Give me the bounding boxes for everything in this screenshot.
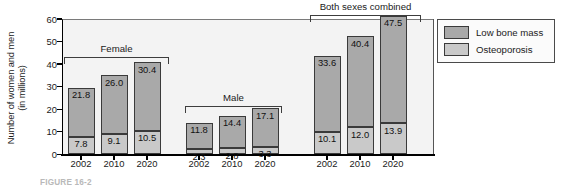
x-tick-mark-3: [198, 156, 199, 160]
bracket-male: [185, 106, 282, 113]
figure-caption: FIGURE 16-2: [40, 178, 92, 187]
x-tick-mark-0: [80, 156, 81, 160]
bar-segment-low-bone-mass: 11.8: [186, 123, 213, 150]
x-tick-mark-4: [231, 156, 232, 160]
bracket-combined: [310, 15, 421, 22]
bar: 14.42.8: [219, 116, 246, 155]
y-tick-mark-10: [57, 131, 62, 132]
plot-right-border: [433, 19, 434, 155]
bar-value-label: 13.9: [381, 126, 406, 136]
legend: Low bone mass Osteoporosis: [437, 19, 555, 63]
bar-value-label: 10.5: [135, 133, 160, 143]
y-tick-mark-60: [57, 18, 62, 19]
bar: 40.412.0: [347, 36, 374, 154]
legend-swatch-low-bone-mass: [444, 26, 469, 39]
legend-item-low-bone-mass: Low bone mass: [444, 25, 543, 39]
legend-item-osteoporosis: Osteoporosis: [444, 42, 533, 56]
legend-label-osteoporosis: Osteoporosis: [476, 44, 533, 55]
y-tick-mark-30: [57, 86, 62, 87]
bar: 21.87.8: [68, 88, 95, 155]
bar-value-label: 7.8: [69, 139, 94, 149]
bar: 47.513.9: [380, 16, 407, 155]
y-tick-mark-20: [57, 109, 62, 110]
bar-value-label: 30.4: [135, 65, 160, 75]
x-tick-mark-7: [359, 156, 360, 160]
x-tick-label-8: 2020: [373, 158, 413, 169]
y-tick-mark-40: [57, 63, 62, 64]
group-label-male: Male: [185, 92, 282, 103]
bar: 33.610.1: [314, 56, 341, 155]
bar-segment-low-bone-mass: 17.1: [252, 108, 279, 147]
bar-value-label: 12.0: [348, 130, 373, 140]
legend-label-low-bone-mass: Low bone mass: [476, 27, 543, 38]
bar-value-label: 21.8: [69, 90, 94, 100]
x-axis-line: [61, 154, 435, 156]
group-label-female: Female: [64, 43, 169, 54]
bar-segment-low-bone-mass: 30.4: [134, 62, 161, 131]
x-tick-label-2: 2020: [127, 158, 167, 169]
x-tick-label-5: 2020: [245, 158, 285, 169]
x-tick-mark-8: [392, 156, 393, 160]
bar-value-label: 11.8: [187, 125, 212, 135]
bar-value-label: 9.1: [102, 136, 127, 146]
y-tick-mark-0: [57, 154, 62, 155]
bar-segment-osteoporosis: 2.8: [219, 148, 246, 154]
bar-segment-osteoporosis: 12.0: [347, 127, 374, 154]
bar-segment-osteoporosis: 9.1: [101, 134, 128, 155]
bar-segment-osteoporosis: 13.9: [380, 123, 407, 154]
group-label-combined: Both sexes combined: [288, 1, 443, 12]
x-tick-mark-6: [326, 156, 327, 160]
bar-value-label: 10.1: [315, 134, 340, 144]
bar-segment-osteoporosis: 2.3: [186, 149, 213, 154]
bar: 17.13.3: [252, 108, 279, 154]
bar: 26.09.1: [101, 75, 128, 154]
bar-segment-osteoporosis: 10.5: [134, 131, 161, 155]
bar: 11.82.3: [186, 123, 213, 155]
x-tick-mark-2: [146, 156, 147, 160]
bar-segment-low-bone-mass: 26.0: [101, 75, 128, 134]
bar-segment-low-bone-mass: 47.5: [380, 16, 407, 123]
bar-segment-low-bone-mass: 40.4: [347, 36, 374, 127]
y-axis-title-line1: Number of women and men: [6, 32, 16, 144]
bar-value-label: 33.6: [315, 58, 340, 68]
bracket-female: [64, 57, 169, 64]
y-axis-title-line2: (in millions): [17, 32, 28, 144]
legend-swatch-osteoporosis: [444, 43, 469, 56]
bar-segment-low-bone-mass: 21.8: [68, 88, 95, 137]
x-tick-mark-1: [113, 156, 114, 160]
x-tick-mark-5: [264, 156, 265, 160]
bar-segment-osteoporosis: 7.8: [68, 137, 95, 155]
bar-value-label: 40.4: [348, 39, 373, 49]
y-axis-title: Number of women and men (in millions): [0, 14, 34, 162]
bar-value-label: 26.0: [102, 78, 127, 88]
bar-value-label: 14.4: [220, 118, 245, 128]
bar-segment-osteoporosis: 3.3: [252, 147, 279, 154]
bar-segment-osteoporosis: 10.1: [314, 132, 341, 155]
bar-segment-low-bone-mass: 33.6: [314, 56, 341, 132]
bar: 30.410.5: [134, 62, 161, 154]
bar-segment-low-bone-mass: 14.4: [219, 116, 246, 148]
figure-container: Number of women and men (in millions) 60…: [0, 0, 562, 187]
y-tick-mark-50: [57, 41, 62, 42]
